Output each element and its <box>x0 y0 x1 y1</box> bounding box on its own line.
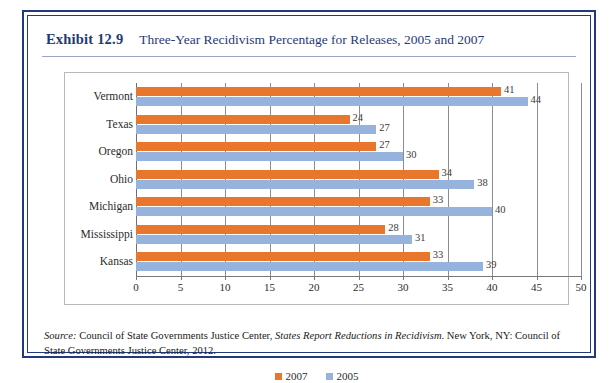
x-tick-10 <box>225 276 226 280</box>
chart-row: 3438 <box>136 166 581 194</box>
x-tick-30 <box>403 276 404 280</box>
category-label-vermont: Vermont <box>65 83 133 111</box>
x-tick-label-15: 15 <box>264 281 275 293</box>
bar-oregon-2005 <box>136 152 403 161</box>
chart-row: 4144 <box>136 83 581 111</box>
bar-value-michigan-2007: 33 <box>433 194 444 205</box>
bar-texas-2005 <box>136 125 376 134</box>
x-tick-5 <box>181 276 182 280</box>
bar-oregon-2007 <box>136 142 376 151</box>
bar-value-vermont-2005: 44 <box>531 94 542 105</box>
x-tick-label-25: 25 <box>353 281 364 293</box>
legend-label-2005: 2005 <box>337 370 359 382</box>
x-tick-45 <box>537 276 538 280</box>
figure-frame-inner: Exhibit 12.9 Three-Year Recidivism Perce… <box>27 15 591 353</box>
bar-ohio-2005 <box>136 180 474 189</box>
chart-legend: 20072005 <box>65 365 568 379</box>
exhibit-label: Exhibit 12.9 <box>46 31 123 47</box>
bar-value-texas-2005: 27 <box>379 122 390 133</box>
x-tick-20 <box>314 276 315 280</box>
page-title: Three-Year Recidivism Percentage for Rel… <box>139 32 484 47</box>
legend-swatch-2007 <box>275 373 282 380</box>
bar-vermont-2005 <box>136 97 528 106</box>
figure-frame: Exhibit 12.9 Three-Year Recidivism Perce… <box>22 10 596 358</box>
bar-ohio-2007 <box>136 170 439 179</box>
bar-value-kansas-2005: 39 <box>486 259 497 270</box>
bar-vermont-2007 <box>136 87 501 96</box>
category-label-kansas: Kansas <box>65 248 133 276</box>
chart-row: 2427 <box>136 111 581 139</box>
x-tick-label-5: 5 <box>178 281 184 293</box>
category-label-oregon: Oregon <box>65 138 133 166</box>
source-prefix: Source: <box>44 330 77 341</box>
legend-item-2005[interactable]: 2005 <box>326 369 359 382</box>
bar-value-ohio-2007: 34 <box>442 167 453 178</box>
bar-kansas-2005 <box>136 262 483 271</box>
figure-title-row: Exhibit 12.9 Three-Year Recidivism Perce… <box>46 30 576 52</box>
bar-value-kansas-2007: 33 <box>433 249 444 260</box>
x-tick-40 <box>492 276 493 280</box>
x-tick-label-40: 40 <box>487 281 498 293</box>
bar-value-oregon-2005: 30 <box>406 149 417 160</box>
chart-row: 3340 <box>136 193 581 221</box>
category-label-texas: Texas <box>65 111 133 139</box>
source-title-italic: States Report Reductions in Recidivism <box>275 330 442 341</box>
category-label-michigan: Michigan <box>65 193 133 221</box>
source-note: Source: Council of State Governments Jus… <box>44 329 574 358</box>
gridline-50 <box>581 83 582 276</box>
category-label-ohio: Ohio <box>65 166 133 194</box>
bar-value-ohio-2005: 38 <box>477 177 488 188</box>
chart-row: 2831 <box>136 221 581 249</box>
bar-value-vermont-2007: 41 <box>504 84 515 95</box>
x-tick-label-50: 50 <box>576 281 587 293</box>
x-tick-label-10: 10 <box>220 281 231 293</box>
bar-value-michigan-2005: 40 <box>495 204 506 215</box>
chart-row: 2730 <box>136 138 581 166</box>
chart-row: 3339 <box>136 248 581 276</box>
x-tick-50 <box>581 276 582 280</box>
x-tick-label-35: 35 <box>442 281 453 293</box>
legend-item-2007[interactable]: 2007 <box>275 369 308 382</box>
x-tick-label-30: 30 <box>398 281 409 293</box>
bar-value-mississippi-2007: 28 <box>388 222 399 233</box>
bar-michigan-2007 <box>136 197 430 206</box>
bar-value-mississippi-2005: 31 <box>415 232 426 243</box>
legend-swatch-2005 <box>326 373 333 380</box>
source-text-1: Council of State Governments Justice Cen… <box>77 330 275 341</box>
x-tick-35 <box>448 276 449 280</box>
x-tick-25 <box>359 276 360 280</box>
x-axis: 05101520253035404550 <box>136 276 581 298</box>
x-tick-label-20: 20 <box>309 281 320 293</box>
legend-label-2007: 2007 <box>286 370 308 382</box>
bar-michigan-2005 <box>136 207 492 216</box>
bar-texas-2007 <box>136 115 350 124</box>
x-tick-label-45: 45 <box>531 281 542 293</box>
chart-bars-group: 4144242727303438334028313339 <box>136 83 581 276</box>
chart-plot-area: 4144242727303438334028313339 <box>136 83 581 276</box>
category-label-mississippi: Mississippi <box>65 221 133 249</box>
bar-value-texas-2007: 24 <box>353 112 364 123</box>
x-tick-0 <box>136 276 137 280</box>
bar-mississippi-2005 <box>136 235 412 244</box>
chart-container: VermontTexasOregonOhioMichiganMississipp… <box>64 72 569 305</box>
bar-kansas-2007 <box>136 252 430 261</box>
bar-mississippi-2007 <box>136 225 385 234</box>
category-axis-labels: VermontTexasOregonOhioMichiganMississipp… <box>65 83 133 276</box>
bar-value-oregon-2007: 27 <box>379 139 390 150</box>
title-divider <box>42 56 576 57</box>
x-tick-15 <box>270 276 271 280</box>
x-tick-label-0: 0 <box>133 281 139 293</box>
